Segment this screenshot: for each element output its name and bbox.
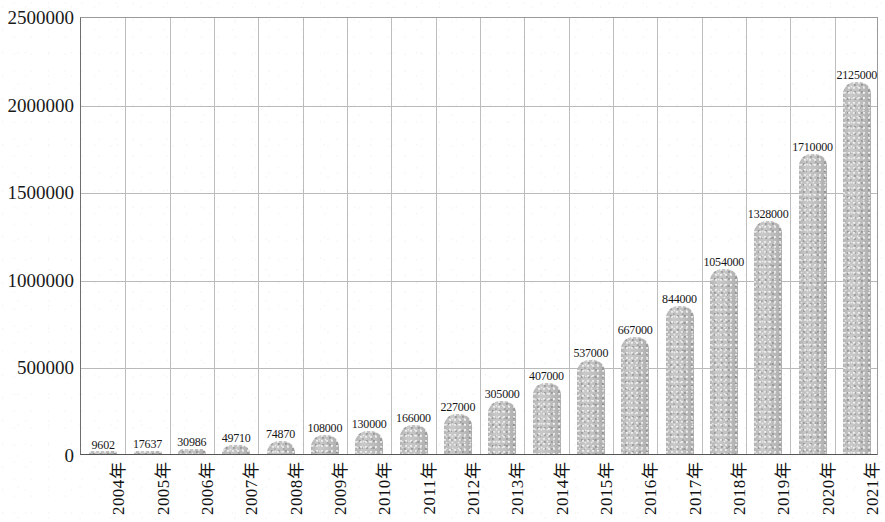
bar [754, 221, 782, 454]
bar [444, 414, 472, 454]
plot-area: 9602176373098649710748701080001300001660… [80, 17, 878, 455]
bar-value-label: 108000 [307, 422, 342, 434]
y-axis-tick-label: 0 [0, 446, 74, 465]
vertical-gridline [524, 18, 525, 454]
bar [843, 82, 871, 454]
vertical-gridline [790, 18, 791, 454]
x-axis-tick-label: 2017年 [687, 462, 704, 515]
x-axis-tick-label: 2020年 [820, 462, 837, 515]
bar-value-label: 537000 [573, 347, 608, 359]
vertical-gridline [258, 18, 259, 454]
bar-value-label: 130000 [352, 418, 387, 430]
bar-value-label: 49710 [222, 432, 251, 444]
bar [710, 269, 738, 454]
x-axis-tick-label: 2009年 [332, 462, 349, 515]
bar-value-label: 407000 [529, 370, 564, 382]
bar-value-label: 844000 [662, 293, 697, 305]
x-axis-tick-label: 2014年 [554, 462, 571, 515]
vertical-gridline [303, 18, 304, 454]
y-axis-tick-label: 1500000 [0, 183, 74, 202]
vertical-gridline [835, 18, 836, 454]
bar [355, 431, 383, 454]
bar-value-label: 1710000 [792, 141, 833, 153]
x-axis-tick-label: 2010年 [376, 462, 393, 515]
vertical-gridline [569, 18, 570, 454]
bar-value-label: 305000 [485, 388, 520, 400]
bar-value-label: 17637 [133, 438, 162, 450]
horizontal-gridline [81, 106, 877, 107]
bar [267, 441, 295, 454]
y-axis-tick-label: 1000000 [0, 271, 74, 290]
vertical-gridline [746, 18, 747, 454]
x-axis-tick-label: 2005年 [155, 462, 172, 515]
bar [178, 449, 206, 454]
bar-value-label: 30986 [177, 436, 206, 448]
vertical-gridline [657, 18, 658, 454]
bar [799, 154, 827, 454]
bar [533, 383, 561, 454]
bar [488, 401, 516, 454]
x-axis-tick-label: 2021年 [864, 462, 881, 515]
x-axis-tick-label: 2018年 [731, 462, 748, 515]
vertical-gridline [436, 18, 437, 454]
x-axis-tick-label: 2008年 [288, 462, 305, 515]
vertical-gridline [170, 18, 171, 454]
horizontal-gridline [81, 193, 877, 194]
bar-value-label: 1054000 [704, 256, 745, 268]
bar [621, 337, 649, 454]
y-axis-tick-label: 500000 [0, 358, 74, 377]
x-axis-tick-label: 2015年 [598, 462, 615, 515]
bar-value-label: 2125000 [837, 69, 878, 81]
bar-value-label: 667000 [618, 324, 653, 336]
x-axis-tick-label: 2012年 [465, 462, 482, 515]
vertical-gridline [391, 18, 392, 454]
x-axis-tick-label: 2016年 [642, 462, 659, 515]
bar [134, 451, 162, 454]
x-axis-tick-label: 2006年 [199, 462, 216, 515]
bar [400, 425, 428, 454]
bar [311, 435, 339, 454]
bar-value-label: 166000 [396, 412, 431, 424]
vertical-gridline [702, 18, 703, 454]
bar [666, 306, 694, 454]
x-axis-tick-label: 2004年 [110, 462, 127, 515]
x-axis-tick-label: 2013年 [509, 462, 526, 515]
vertical-gridline [480, 18, 481, 454]
x-axis-tick-label: 2007年 [243, 462, 260, 515]
vertical-gridline [613, 18, 614, 454]
x-axis-tick-label: 2019年 [775, 462, 792, 515]
y-axis-tick-label: 2000000 [0, 96, 74, 115]
y-axis-tick-label: 2500000 [0, 8, 74, 27]
bar [222, 445, 250, 454]
vertical-gridline [214, 18, 215, 454]
bar [577, 360, 605, 454]
bar-value-label: 74870 [266, 428, 295, 440]
bar-chart: 05000001000000150000020000002500000 9602… [0, 0, 885, 522]
vertical-gridline [125, 18, 126, 454]
bar-value-label: 227000 [440, 401, 475, 413]
x-axis-tick-label: 2011年 [421, 462, 438, 514]
bar-value-label: 9602 [92, 439, 115, 451]
vertical-gridline [347, 18, 348, 454]
bar-value-label: 1328000 [748, 208, 789, 220]
